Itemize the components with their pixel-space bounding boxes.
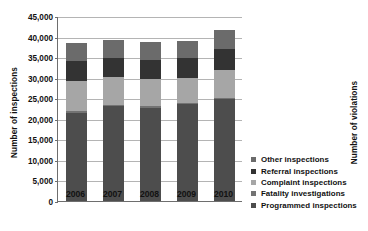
bar-segment[interactable] xyxy=(66,43,87,61)
bar-segment[interactable] xyxy=(214,70,235,98)
stacked-bar-chart: Number of inspections Number of violatio… xyxy=(0,0,368,231)
bar-segment[interactable] xyxy=(177,104,198,201)
legend-item-label: Other inspections xyxy=(261,155,329,164)
y-axis-tick-label: 30,000 xyxy=(1,74,53,83)
y-axis-tick-label: 45,000 xyxy=(1,13,53,22)
bar-segment[interactable] xyxy=(103,106,124,201)
y-axis-tick-label: 35,000 xyxy=(1,54,53,63)
bar-segment[interactable] xyxy=(214,49,235,70)
x-axis-tick-label: 2009 xyxy=(177,189,196,199)
bar-segment[interactable] xyxy=(103,40,124,58)
legend-item-label: Referral inspections xyxy=(261,167,338,176)
plot-area xyxy=(57,17,242,202)
y-axis-tick-label: 40,000 xyxy=(1,33,53,42)
legend-item[interactable]: Programmed inspections xyxy=(251,200,357,211)
x-axis-tick-label: 2006 xyxy=(66,189,85,199)
y-axis-title-left: Number of inspections xyxy=(10,53,19,173)
x-axis-tick-label: 2007 xyxy=(103,189,122,199)
stacked-bar[interactable] xyxy=(140,42,161,201)
bar-segment[interactable] xyxy=(140,42,161,59)
bar-segment[interactable] xyxy=(66,61,87,81)
y-axis-tick-label: 5,000 xyxy=(1,177,53,186)
y-axis-tick-label: 10,000 xyxy=(1,156,53,165)
legend-item-label: Fatality investigations xyxy=(261,189,345,198)
bar-segment[interactable] xyxy=(103,58,124,77)
chart-legend: Other inspectionsReferral inspectionsCom… xyxy=(251,154,357,211)
legend-swatch-icon xyxy=(251,169,256,174)
bar-series-container xyxy=(58,17,242,201)
legend-item[interactable]: Other inspections xyxy=(251,154,357,165)
stacked-bar[interactable] xyxy=(214,30,235,201)
y-axis-tick-label: 25,000 xyxy=(1,95,53,104)
stacked-bar[interactable] xyxy=(66,43,87,201)
bar-segment[interactable] xyxy=(177,41,198,58)
bar-segment[interactable] xyxy=(214,99,235,201)
legend-swatch-icon xyxy=(251,203,256,208)
stacked-bar[interactable] xyxy=(177,41,198,201)
x-axis-tick-label: 2008 xyxy=(140,189,159,199)
bar-segment[interactable] xyxy=(214,30,235,49)
x-axis-tick-label: 2010 xyxy=(214,189,233,199)
legend-item[interactable]: Fatality investigations xyxy=(251,188,357,199)
y-axis-tick-label: 20,000 xyxy=(1,115,53,124)
bar-segment[interactable] xyxy=(103,77,124,105)
stacked-bar[interactable] xyxy=(103,40,124,201)
y-axis-tick-label: 0 xyxy=(1,198,53,207)
legend-item-label: Complaint inspections xyxy=(261,178,347,187)
y-axis-tick-mark xyxy=(55,202,58,203)
bar-segment[interactable] xyxy=(177,78,198,103)
bar-segment[interactable] xyxy=(66,81,87,111)
bar-segment[interactable] xyxy=(140,108,161,201)
bar-segment[interactable] xyxy=(140,60,161,79)
legend-swatch-icon xyxy=(251,180,256,185)
legend-item[interactable]: Referral inspections xyxy=(251,165,357,176)
legend-swatch-icon xyxy=(251,191,256,196)
bar-segment[interactable] xyxy=(177,58,198,78)
legend-swatch-icon xyxy=(251,157,256,162)
bar-segment[interactable] xyxy=(66,113,87,201)
bar-segment[interactable] xyxy=(140,79,161,107)
legend-item-label: Programmed inspections xyxy=(261,201,357,210)
legend-item[interactable]: Complaint inspections xyxy=(251,177,357,188)
y-axis-tick-label: 15,000 xyxy=(1,136,53,145)
